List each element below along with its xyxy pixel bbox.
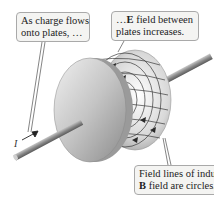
callout-e-field-text: field between xyxy=(134,14,193,25)
callout-b-field-line1: Field lines of induced xyxy=(139,168,214,180)
current-label: I xyxy=(14,138,17,149)
callout-e-field-line2: plates increases. xyxy=(116,26,194,38)
callout-b-field-text: field are circles. xyxy=(146,180,214,191)
leader-line-e-field xyxy=(118,41,124,52)
e-symbol: E xyxy=(127,14,134,25)
callout-e-field: …E field between plates increases. xyxy=(111,11,199,41)
callout-b-field-line2: B field are circles. xyxy=(139,180,214,192)
callout-charge-flow: As charge flows onto plates, … xyxy=(16,12,90,42)
leader-line-charge xyxy=(28,42,42,132)
callout-charge-flow-line1: As charge flows xyxy=(21,15,85,27)
callout-b-field: Field lines of induced B field are circl… xyxy=(134,165,214,195)
front-plate xyxy=(54,58,126,162)
callout-charge-flow-line2: onto plates, … xyxy=(21,27,85,39)
callout-e-field-line1: …E field between xyxy=(116,14,194,26)
current-arrow-icon xyxy=(22,131,38,140)
b-symbol: B xyxy=(139,180,146,191)
ellipsis: … xyxy=(116,14,127,25)
